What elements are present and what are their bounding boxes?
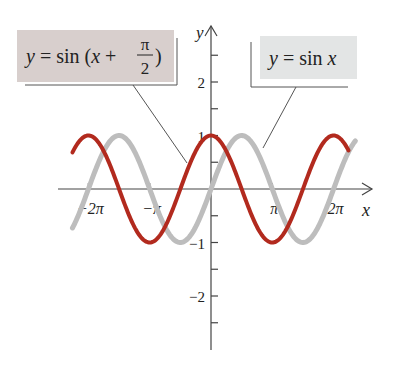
- x-axis-label: x: [361, 200, 370, 220]
- label-shifted-suffix: ): [155, 45, 162, 68]
- y-tick-label: −2: [189, 289, 205, 305]
- leader-line-shifted: [133, 85, 187, 163]
- y-tick-label: 2: [198, 75, 206, 91]
- svg-text:y = sin x: y = sin x: [267, 47, 337, 70]
- svg-text:y = sin (x +: y = sin (x +: [24, 45, 116, 68]
- label-base-x: x: [327, 47, 337, 69]
- leader-line-base: [263, 87, 296, 148]
- label-shifted-denominator: 2: [141, 59, 150, 78]
- label-shifted-plus: +: [100, 45, 116, 67]
- label-base-y: y: [267, 47, 278, 70]
- label-base-sine: y = sin x: [251, 36, 357, 148]
- y-axis-label: y: [194, 23, 204, 42]
- label-shifted-x: x: [90, 45, 100, 67]
- label-shifted-eq: = sin (: [35, 45, 92, 68]
- label-shifted-y: y: [24, 45, 35, 68]
- label-shifted-numerator: π: [141, 35, 150, 54]
- label-shifted-sine: y = sin (x + π 2 ): [17, 30, 187, 163]
- label-base-eq: = sin: [278, 47, 328, 69]
- sine-phase-shift-chart: y = sin (x + π 2 ) y = sin x −2π−ππ2π21−…: [0, 0, 402, 374]
